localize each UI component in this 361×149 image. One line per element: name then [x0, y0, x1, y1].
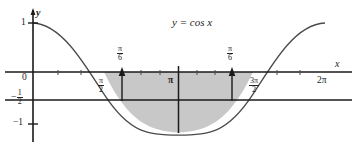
cosine-figure: y = cos x y x 1 0 −1 −12 π 2 π 3π 2 2π π… [0, 0, 361, 149]
y-axis-arrowhead [31, 8, 36, 15]
annotation-right-pi-over-6: π 6 [227, 44, 233, 62]
one-digit: 1 [18, 117, 23, 127]
fraction-one-half: 12 [17, 89, 23, 107]
annotation-left-pi-over-6: π 6 [117, 44, 123, 62]
x-tick-label-3pi-over-2: 3π 2 [249, 76, 259, 94]
y-axis-label: y [36, 8, 40, 18]
x-axis-label: x [335, 59, 339, 69]
fraction-pi-over-6: π 6 [227, 45, 233, 63]
y-tick-label-minus-1: −1 [13, 118, 23, 128]
fraction-pi-over-6: π 6 [117, 45, 123, 63]
x-tick-label-pi: π [168, 76, 173, 86]
plot-title: y = cos x [172, 17, 212, 28]
x-tick-label-2pi: 2π [317, 76, 327, 86]
x-tick-label-pi-over-2: π 2 [98, 76, 104, 94]
y-tick-label-0: 0 [22, 73, 27, 83]
y-tick-label-1: 1 [21, 18, 26, 28]
fraction-3pi-over-2: 3π 2 [249, 77, 259, 95]
fraction-pi-over-2: π 2 [98, 77, 104, 95]
y-label-minus-one-half: −12 [11, 88, 23, 106]
